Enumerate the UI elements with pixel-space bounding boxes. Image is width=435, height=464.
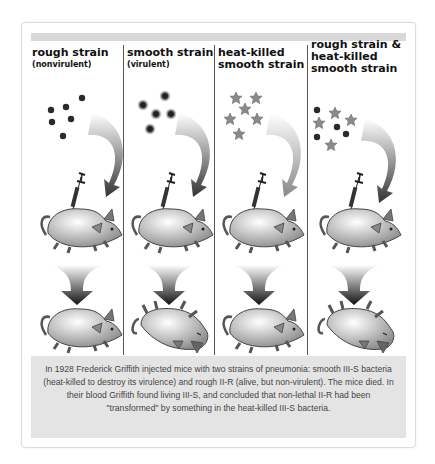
injection-arrow-icon xyxy=(179,113,219,203)
mouse-before-icon xyxy=(76,213,77,214)
down-arrow-icon xyxy=(169,265,170,266)
mouse-dead-icon xyxy=(167,311,168,312)
mouse-alive-icon xyxy=(258,313,259,314)
column-rough-plus-heat-killed: rough strain & heat-killed smooth strain… xyxy=(307,41,407,358)
down-arrow-icon xyxy=(354,265,355,266)
mouse-before-icon xyxy=(355,213,356,214)
column-smooth-strain: smooth strain (virulent) mouse dies xyxy=(123,41,215,358)
mouse-dead-icon xyxy=(353,311,354,312)
caption-box: In 1928 Frederick Griffith injected mice… xyxy=(31,356,406,438)
injection-arrow-icon xyxy=(270,113,310,203)
injection-arrow-icon xyxy=(365,119,405,209)
mouse-alive-icon xyxy=(76,313,77,314)
caption-text: In 1928 Frederick Griffith injected mice… xyxy=(31,356,406,415)
down-arrow-icon xyxy=(259,265,260,266)
down-arrow-icon xyxy=(77,265,78,266)
column-heat-killed-smooth: heat-killed smooth strain mouse lives xyxy=(214,41,307,358)
mouse-before-icon xyxy=(258,213,259,214)
mouse-before-icon xyxy=(167,213,168,214)
diagram-frame: rough strain (nonvirulent) mouse lives s… xyxy=(21,22,416,448)
column-rough-strain: rough strain (nonvirulent) mouse lives xyxy=(22,41,122,358)
